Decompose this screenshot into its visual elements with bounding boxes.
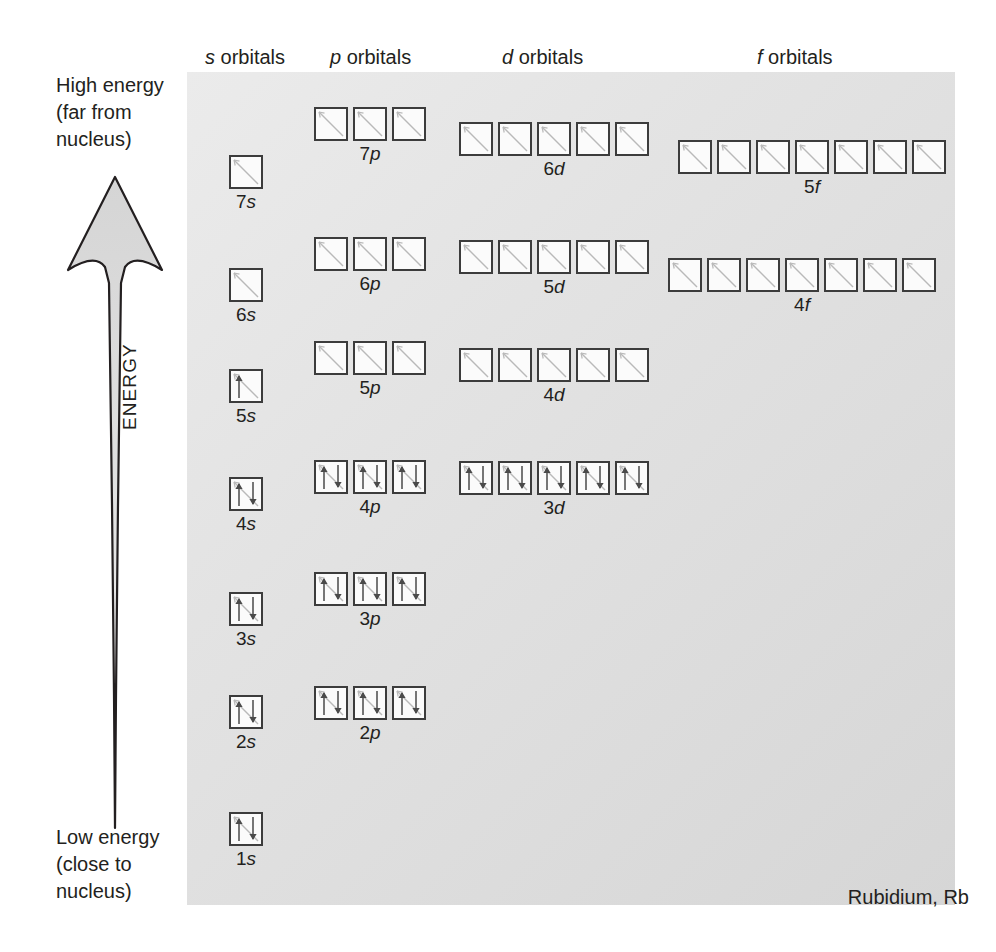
orbital-box[interactable] xyxy=(576,348,610,382)
column-header-s: s orbitals xyxy=(205,46,285,69)
orbital-box[interactable] xyxy=(314,572,348,606)
orbital-box[interactable] xyxy=(229,477,263,511)
orbital-box[interactable] xyxy=(795,140,829,174)
orbital-box[interactable] xyxy=(392,341,426,375)
orbital-box[interactable] xyxy=(615,461,649,495)
orbital-box[interactable] xyxy=(717,140,751,174)
orbital-label-n: 5 xyxy=(804,176,815,197)
orbital-box[interactable] xyxy=(392,107,426,141)
orbital-box[interactable] xyxy=(498,240,532,274)
orbital-box[interactable] xyxy=(834,140,868,174)
orbital-box[interactable] xyxy=(576,461,610,495)
orbital-label-l: s xyxy=(247,405,257,426)
orbital-label-5s: 5s xyxy=(229,405,263,427)
energy-axis-label: ENERGY xyxy=(119,343,141,430)
orbital-box-row xyxy=(314,572,426,606)
orbital-label-4f: 4f xyxy=(668,294,936,316)
orbital-box[interactable] xyxy=(314,686,348,720)
orbital-box[interactable] xyxy=(537,240,571,274)
high-energy-line-1: High energy xyxy=(56,72,164,99)
orbital-box[interactable] xyxy=(912,140,946,174)
orbital-label-5p: 5p xyxy=(314,377,426,399)
element-label: Rubidium, Rb xyxy=(848,886,969,909)
orbital-label-6d: 6d xyxy=(459,158,649,180)
orbital-box[interactable] xyxy=(229,369,263,403)
orbital-group-7p: 7p xyxy=(314,107,426,165)
orbital-box-row xyxy=(229,695,263,729)
orbital-box[interactable] xyxy=(615,122,649,156)
orbital-box-row xyxy=(229,592,263,626)
orbital-group-6p: 6p xyxy=(314,237,426,295)
orbital-box[interactable] xyxy=(229,268,263,302)
orbital-box[interactable] xyxy=(353,572,387,606)
column-header-d: d orbitals xyxy=(502,46,583,69)
orbital-box[interactable] xyxy=(576,122,610,156)
orbital-box[interactable] xyxy=(392,460,426,494)
orbital-box[interactable] xyxy=(537,461,571,495)
orbital-box-row xyxy=(314,237,426,271)
orbital-group-7s: 7s xyxy=(229,155,263,213)
orbital-box[interactable] xyxy=(615,348,649,382)
orbital-box[interactable] xyxy=(615,240,649,274)
orbital-box[interactable] xyxy=(353,341,387,375)
orbital-box[interactable] xyxy=(392,572,426,606)
orbital-box[interactable] xyxy=(678,140,712,174)
orbital-label-4p: 4p xyxy=(314,496,426,518)
orbital-label-l: p xyxy=(370,496,381,517)
orbital-box[interactable] xyxy=(537,348,571,382)
orbital-box[interactable] xyxy=(353,237,387,271)
orbital-box[interactable] xyxy=(576,240,610,274)
orbital-group-1s: 1s xyxy=(229,812,263,870)
orbital-box-row xyxy=(459,461,649,495)
orbital-label-n: 4 xyxy=(794,294,805,315)
orbital-box-row xyxy=(459,348,649,382)
orbital-box[interactable] xyxy=(459,461,493,495)
orbital-box[interactable] xyxy=(668,258,702,292)
orbital-box[interactable] xyxy=(498,348,532,382)
orbital-label-7p: 7p xyxy=(314,143,426,165)
column-header-letter: p xyxy=(330,46,341,68)
orbital-box[interactable] xyxy=(459,122,493,156)
orbital-box[interactable] xyxy=(229,592,263,626)
orbital-label-l: d xyxy=(554,497,565,518)
orbital-group-6d: 6d xyxy=(459,122,649,180)
orbital-label-n: 3 xyxy=(543,497,554,518)
orbital-label-l: s xyxy=(247,628,257,649)
orbital-box[interactable] xyxy=(459,348,493,382)
orbital-box[interactable] xyxy=(314,107,348,141)
orbital-box-row xyxy=(229,369,263,403)
orbital-box[interactable] xyxy=(314,460,348,494)
orbital-box[interactable] xyxy=(353,460,387,494)
orbital-box[interactable] xyxy=(902,258,936,292)
orbital-box[interactable] xyxy=(314,237,348,271)
orbital-box[interactable] xyxy=(824,258,858,292)
orbital-label-l: s xyxy=(247,848,257,869)
orbital-box[interactable] xyxy=(229,695,263,729)
orbital-box[interactable] xyxy=(537,122,571,156)
orbital-box[interactable] xyxy=(756,140,790,174)
orbital-box[interactable] xyxy=(314,341,348,375)
orbital-box[interactable] xyxy=(392,686,426,720)
orbital-group-5d: 5d xyxy=(459,240,649,298)
orbital-box[interactable] xyxy=(498,461,532,495)
orbital-label-n: 2 xyxy=(359,722,370,743)
orbital-box[interactable] xyxy=(229,155,263,189)
orbital-box[interactable] xyxy=(392,237,426,271)
orbital-box[interactable] xyxy=(353,107,387,141)
orbital-box[interactable] xyxy=(863,258,897,292)
orbital-label-l: d xyxy=(554,158,565,179)
orbital-box-row xyxy=(314,341,426,375)
orbital-box[interactable] xyxy=(459,240,493,274)
orbital-box[interactable] xyxy=(873,140,907,174)
orbital-group-5p: 5p xyxy=(314,341,426,399)
orbital-label-l: d xyxy=(554,384,565,405)
orbital-box[interactable] xyxy=(785,258,819,292)
orbital-group-2p: 2p xyxy=(314,686,426,744)
orbital-box[interactable] xyxy=(707,258,741,292)
orbital-box[interactable] xyxy=(498,122,532,156)
orbital-box[interactable] xyxy=(746,258,780,292)
column-header-f: f orbitals xyxy=(757,46,833,69)
orbital-box[interactable] xyxy=(229,812,263,846)
orbital-box[interactable] xyxy=(353,686,387,720)
orbital-label-n: 5 xyxy=(543,276,554,297)
